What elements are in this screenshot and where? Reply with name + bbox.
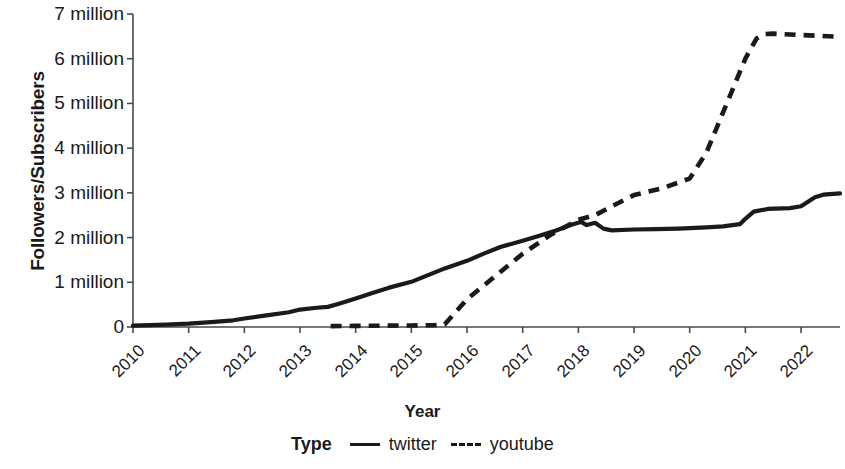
legend-key-dashed-icon bbox=[451, 443, 481, 446]
legend-title: Type bbox=[291, 434, 332, 455]
chart-legend: Type twitter youtube bbox=[0, 434, 845, 455]
x-axis-title: Year bbox=[0, 402, 845, 422]
x-tick-marks bbox=[133, 327, 801, 333]
plot-area bbox=[0, 0, 845, 469]
legend-entry-youtube: youtube bbox=[451, 434, 554, 455]
series-line-twitter bbox=[133, 193, 840, 325]
chart-figure: Followers/Subscribers 01 million2 millio… bbox=[0, 0, 845, 469]
legend-entry-twitter: twitter bbox=[350, 434, 437, 455]
data-series-group bbox=[133, 34, 840, 326]
axis-lines bbox=[127, 14, 840, 333]
y-tick-marks bbox=[127, 14, 133, 327]
legend-key-solid-icon bbox=[350, 443, 380, 446]
legend-label-youtube: youtube bbox=[490, 434, 554, 455]
legend-label-twitter: twitter bbox=[389, 434, 437, 455]
